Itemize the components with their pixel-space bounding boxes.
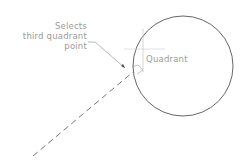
callout-line-1: Selects	[15, 21, 87, 31]
callout-leader	[88, 42, 125, 68]
callout-line-2: third quadrant	[15, 31, 87, 41]
circle	[133, 16, 233, 116]
dashed-line	[33, 72, 133, 156]
callout-label: Selects third quadrant point	[15, 21, 87, 51]
callout-line-3: point	[15, 41, 87, 51]
quadrant-label: Quadrant	[146, 54, 188, 64]
